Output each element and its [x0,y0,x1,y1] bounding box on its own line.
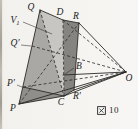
edge-solid-R-O [79,23,126,72]
figure-number: 10 [109,105,119,115]
math-figure: QDRV1Q′BP′PCR′O 10 [0,0,138,129]
p-prime-leader [17,85,22,87]
q-prime-leader [21,45,31,46]
kanji-zu-glyph [97,106,106,115]
figure-caption: 10 [97,104,133,116]
